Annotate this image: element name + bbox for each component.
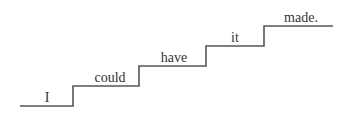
- staircase-line: [20, 26, 333, 106]
- step-5-label: made.: [284, 10, 318, 25]
- step-4-label: it: [231, 30, 239, 45]
- step-1-label: I: [45, 90, 50, 105]
- staircase-diagram: I could have it made.: [0, 0, 352, 115]
- step-3-label: have: [161, 50, 187, 65]
- step-2-label: could: [94, 70, 125, 85]
